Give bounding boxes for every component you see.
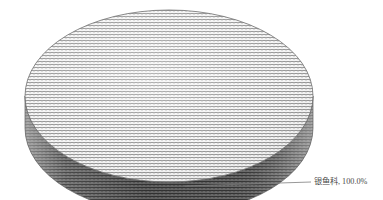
pie-slice-top-face: [25, 10, 313, 182]
pie-chart-3d: 银鱼科, 100.0%: [0, 0, 383, 200]
pie-data-label: 银鱼科, 100.0%: [314, 176, 368, 186]
chart-canvas: 银鱼科, 100.0%: [0, 0, 383, 200]
